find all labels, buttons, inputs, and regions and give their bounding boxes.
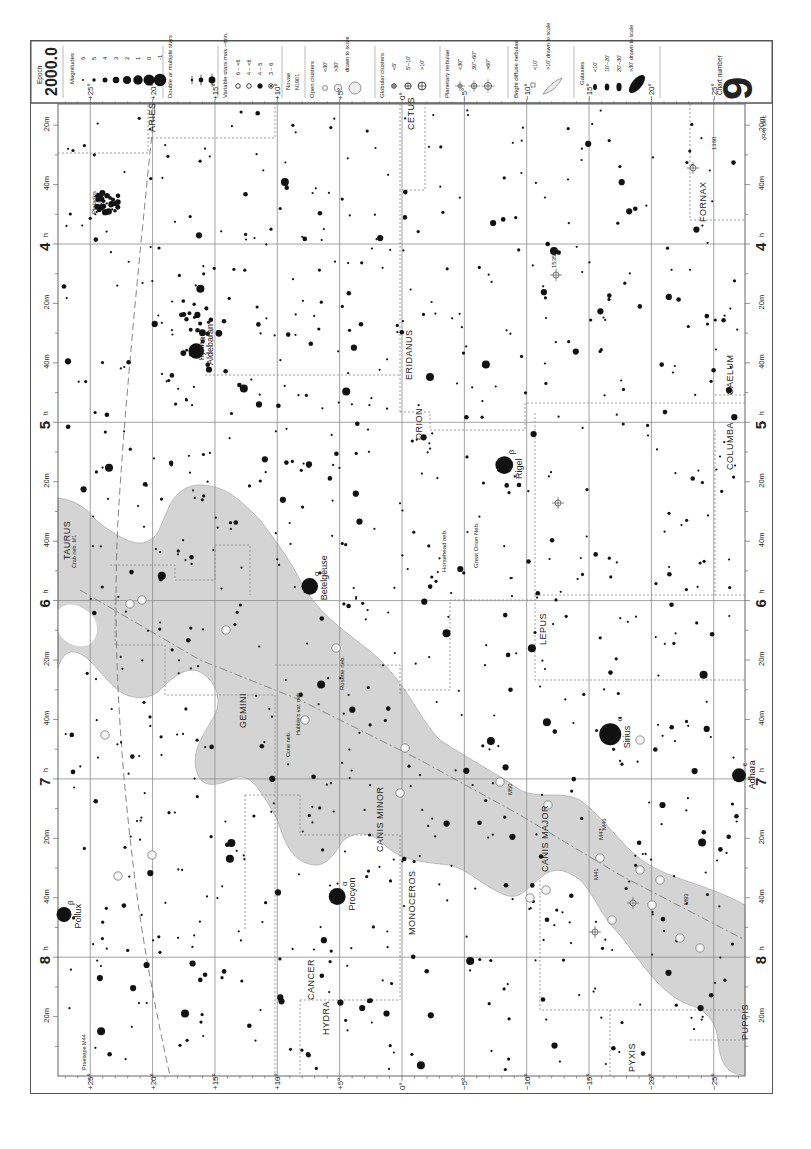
star [552, 623, 554, 625]
star [333, 810, 335, 812]
star [544, 382, 547, 385]
star [674, 472, 676, 474]
star [591, 123, 593, 125]
star [320, 301, 323, 304]
star [622, 388, 625, 391]
epoch-value: 2000.0 [43, 47, 60, 96]
star [641, 1051, 646, 1056]
star [664, 643, 666, 645]
star [710, 380, 713, 383]
star [275, 430, 277, 432]
star [487, 837, 489, 839]
star [93, 153, 96, 156]
star [193, 934, 195, 936]
star [94, 237, 99, 242]
chart-number: 9 [714, 77, 761, 100]
star [436, 701, 438, 703]
star [450, 865, 452, 867]
star [333, 118, 335, 120]
star [426, 373, 434, 381]
star [528, 644, 536, 652]
star [507, 1058, 510, 1061]
star [191, 404, 193, 406]
star [321, 848, 324, 851]
star [202, 494, 205, 497]
object-label: Rosette neb. [339, 656, 345, 690]
star [349, 214, 351, 216]
star [535, 833, 537, 835]
star [417, 1061, 425, 1069]
star [341, 542, 344, 545]
star [130, 754, 135, 759]
globular-size: 5'–10' [405, 56, 411, 70]
star [125, 1058, 127, 1060]
ra-unit: h [758, 233, 765, 237]
star [201, 498, 204, 501]
star [143, 526, 145, 528]
star [517, 483, 522, 488]
ra-label-4h: 4 [752, 242, 769, 251]
star [157, 314, 159, 316]
star [626, 208, 632, 214]
star [199, 160, 202, 163]
star [368, 833, 371, 836]
constellation-fornax: FORNAX [698, 181, 708, 222]
star [178, 659, 180, 661]
star [230, 528, 232, 530]
star [393, 1051, 395, 1053]
star [431, 301, 433, 303]
ra-unit: h [758, 946, 765, 950]
star [581, 271, 583, 273]
magnitude-dot [82, 79, 84, 81]
star [447, 616, 449, 618]
star-procyon [329, 888, 346, 905]
star [466, 957, 474, 965]
star [728, 615, 730, 617]
star [697, 470, 699, 472]
star [616, 414, 618, 416]
star [125, 611, 127, 613]
star [181, 312, 186, 317]
star [415, 663, 417, 665]
dec-label: −5° [460, 1078, 469, 1090]
star [96, 719, 98, 721]
star [171, 333, 173, 335]
star [731, 943, 734, 946]
star [503, 816, 506, 819]
star [181, 869, 183, 871]
galaxy-size: >30' drawn to scale [628, 25, 634, 72]
planetary-nebula-symbol [687, 162, 699, 174]
star [652, 156, 654, 158]
star [265, 317, 267, 319]
star [410, 288, 412, 290]
object-label: Cone neb. [285, 731, 291, 757]
star [164, 144, 166, 146]
star [561, 911, 563, 913]
star [143, 482, 148, 487]
object-label: Great Orion Neb. [473, 522, 479, 568]
star [542, 285, 544, 287]
galaxy-size: 10'–20' [604, 55, 610, 72]
star [667, 512, 670, 515]
star [271, 716, 273, 718]
star [702, 830, 707, 835]
constellation-lepus: LEPUS [538, 613, 548, 645]
star [371, 247, 373, 249]
constellation-columba: COLUMBA [725, 422, 735, 470]
star [471, 386, 473, 388]
star [450, 592, 452, 594]
star [97, 123, 99, 125]
star [710, 632, 715, 637]
star [199, 1021, 202, 1024]
star [289, 1048, 292, 1051]
dec-label: +5° [336, 1078, 345, 1090]
star [233, 623, 236, 626]
star [652, 913, 654, 915]
star [139, 839, 141, 841]
star [313, 315, 315, 317]
star [260, 744, 265, 749]
diffuse-nebulae-label: Bright diffuse nebulae [513, 39, 519, 98]
star [656, 448, 658, 450]
star [365, 875, 368, 878]
star [66, 425, 71, 430]
